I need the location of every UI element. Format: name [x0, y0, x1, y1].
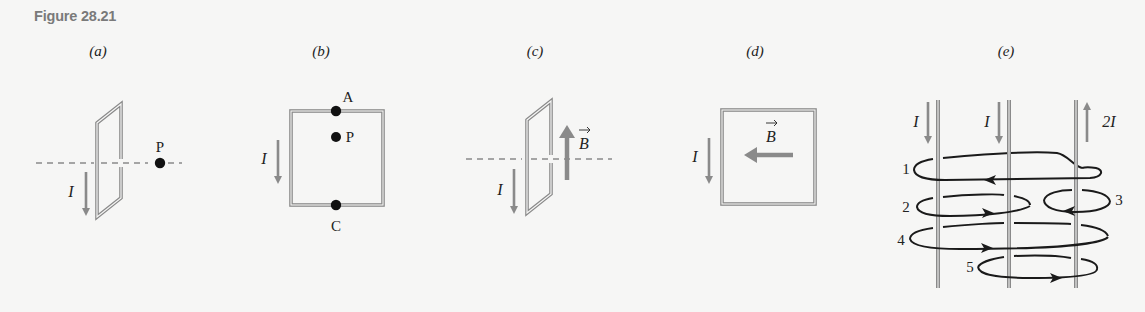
- b-field-label: B: [766, 128, 776, 145]
- wires: [938, 100, 1076, 288]
- panel-d: (d) B I: [691, 43, 815, 204]
- current-label: I: [691, 148, 698, 165]
- point-p-label: P: [156, 139, 164, 155]
- vector-arrow-icon: [766, 120, 777, 126]
- current-label: I: [260, 150, 267, 167]
- b-field-arrow: [559, 125, 575, 180]
- square-loop: [291, 111, 383, 205]
- point-p: [155, 158, 165, 168]
- loop-4-label: 4: [897, 232, 905, 248]
- panel-b: (b) A P C I: [260, 43, 383, 234]
- current-label-1: I: [912, 113, 919, 130]
- b-field-label: B: [579, 135, 589, 152]
- point-c: [331, 200, 341, 210]
- panel-a: (a) P I: [36, 43, 182, 217]
- panel-d-label: (d): [746, 43, 764, 60]
- b-field-arrow: [744, 147, 793, 163]
- panel-e: (e): [897, 43, 1123, 288]
- loop-3-label: 3: [1115, 192, 1123, 208]
- panel-b-label: (b): [312, 43, 330, 60]
- point-a: [331, 106, 341, 116]
- panel-c-label: (c): [527, 43, 544, 60]
- loop-5: [978, 267, 1097, 278]
- panel-e-label: (e): [998, 43, 1015, 60]
- point-c-label: C: [331, 218, 341, 234]
- current-label-3: 2I: [1102, 113, 1116, 130]
- point-p: [331, 132, 341, 142]
- panel-a-label: (a): [89, 43, 107, 60]
- loop-1-label: 1: [902, 161, 910, 177]
- loop-5-label: 5: [966, 259, 974, 275]
- point-p-label: P: [346, 129, 354, 145]
- point-a-label: A: [343, 89, 354, 105]
- current-label: I: [496, 181, 503, 198]
- loop-2-label: 2: [902, 199, 910, 215]
- current-label: I: [67, 183, 74, 200]
- loop-2: [917, 198, 1030, 216]
- vector-arrow-icon: [579, 127, 590, 133]
- figure-canvas: (a) P I (b) A P C I (c): [0, 0, 1145, 312]
- current-label-2: I: [983, 113, 990, 130]
- panel-c: (c) B I: [466, 43, 612, 213]
- loop-2-arrow-icon: [982, 208, 994, 218]
